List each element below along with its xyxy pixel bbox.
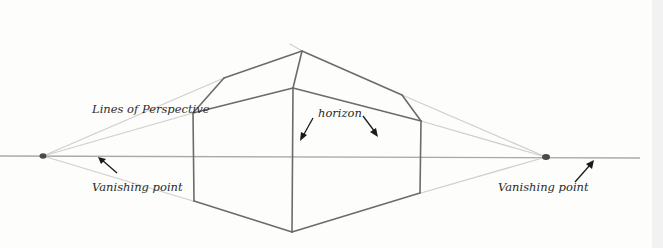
front-corner-edge xyxy=(292,88,293,232)
perspective-diagram: Lines of Perspective horizon Vanishing p… xyxy=(0,0,663,248)
horizon-label: horizon xyxy=(318,106,362,120)
lines-of-perspective-label: Lines of Perspective xyxy=(91,102,210,116)
left-vanishing-point-dot xyxy=(40,153,47,159)
vanishing-point-left-label: Vanishing point xyxy=(92,180,183,194)
paper-edge-shadow xyxy=(652,0,663,248)
left-wall-edge xyxy=(193,113,194,201)
right-wall-edge xyxy=(420,121,421,193)
paper-background xyxy=(0,0,663,248)
right-vanishing-point-dot xyxy=(542,154,550,160)
